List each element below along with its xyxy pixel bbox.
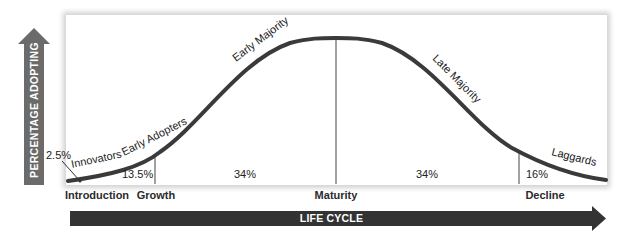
early-majority-percent: 34% [234, 168, 256, 180]
label-early-majority: Early Majority [230, 14, 291, 64]
adoption-curve [68, 38, 606, 181]
early-adopters-percent: 13.5% [122, 168, 153, 180]
innovators-percent: 2.5% [46, 149, 71, 161]
stage-decline: Decline [525, 189, 564, 201]
stage-growth: Growth [137, 189, 176, 201]
stage-maturity: Maturity [315, 189, 358, 201]
laggards-percent: 16% [526, 168, 548, 180]
label-laggards: Laggards [551, 145, 599, 168]
late-majority-percent: 34% [416, 168, 438, 180]
x-axis-label: LIFE CYCLE [70, 211, 593, 226]
stage-introduction: Introduction [65, 189, 129, 201]
diagram-canvas: Innovators Early Adopters Early Majority… [0, 0, 633, 243]
label-innovators: Innovators [70, 147, 123, 170]
y-axis-label: PERCENTAGE ADOPTING [28, 42, 40, 178]
